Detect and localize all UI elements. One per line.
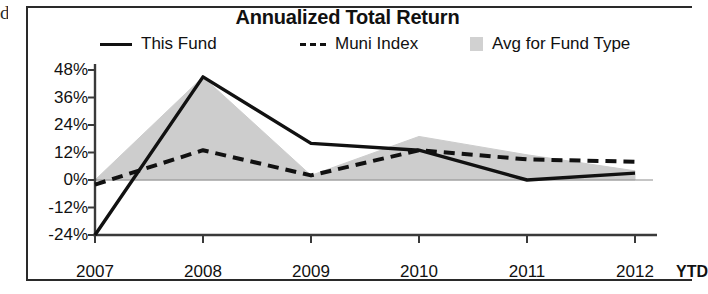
y-axis-tick-label: -24% [26,225,88,245]
y-axis-tick-label: 12% [26,143,88,163]
y-axis-tick-label: 0% [26,170,88,190]
y-axis-tick-label: -12% [26,198,88,218]
ytd-annotation: YTD [676,263,708,281]
y-axis-tick-label: 36% [26,88,88,108]
chart-canvas [26,6,692,281]
plot-area: 48%36%24%12%0%-12%-24% 20072008200920102… [26,6,692,281]
x-axis-tick-label: 2009 [292,262,330,282]
y-axis-tick-label: 48% [26,60,88,80]
x-axis-tick-label: 2007 [76,262,114,282]
x-axis-tick-label: 2010 [400,262,438,282]
x-axis-tick-label: 2011 [509,262,546,282]
x-axis-tick-label: 2008 [184,262,222,282]
x-axis-tick-label: 2012 [616,262,654,282]
y-axis-tick-label: 24% [26,115,88,135]
